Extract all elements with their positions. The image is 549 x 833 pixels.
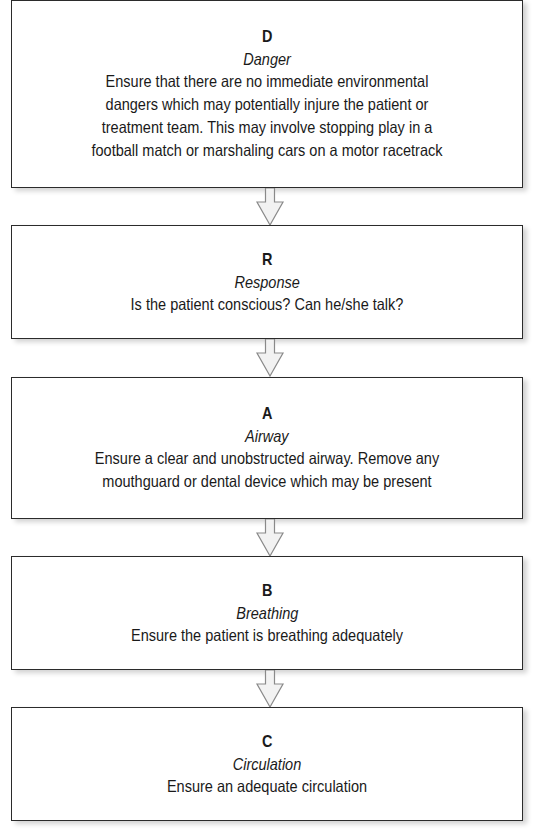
step-response: R Response Is the patient conscious? Can… xyxy=(11,225,523,339)
step-danger: D Danger Ensure that there are no immedi… xyxy=(11,0,523,188)
step-title: Airway xyxy=(245,425,289,447)
step-title: Response xyxy=(234,271,299,293)
step-breathing: B Breathing Ensure the patient is breath… xyxy=(11,556,523,670)
step-letter: A xyxy=(262,403,272,425)
step-description: Ensure that there are no immediate envir… xyxy=(21,70,514,162)
step-description: Ensure a clear and unobstructed airway. … xyxy=(21,447,514,493)
down-arrow-icon xyxy=(255,339,285,377)
down-arrow-icon xyxy=(255,519,285,557)
step-title: Breathing xyxy=(236,602,298,624)
step-letter: D xyxy=(262,26,272,48)
step-title: Circulation xyxy=(233,753,302,775)
step-letter: R xyxy=(262,249,272,271)
down-arrow-icon xyxy=(255,670,285,708)
step-title: Danger xyxy=(243,48,291,70)
step-airway: A Airway Ensure a clear and unobstructed… xyxy=(11,377,523,519)
step-description: Ensure the patient is breathing adequate… xyxy=(21,624,514,647)
step-letter: C xyxy=(262,731,272,753)
down-arrow-icon xyxy=(255,188,285,226)
step-description: Ensure an adequate circulation xyxy=(21,775,514,798)
step-letter: B xyxy=(262,580,272,602)
step-description: Is the patient conscious? Can he/she tal… xyxy=(21,293,514,316)
step-circulation: C Circulation Ensure an adequate circula… xyxy=(11,707,523,821)
